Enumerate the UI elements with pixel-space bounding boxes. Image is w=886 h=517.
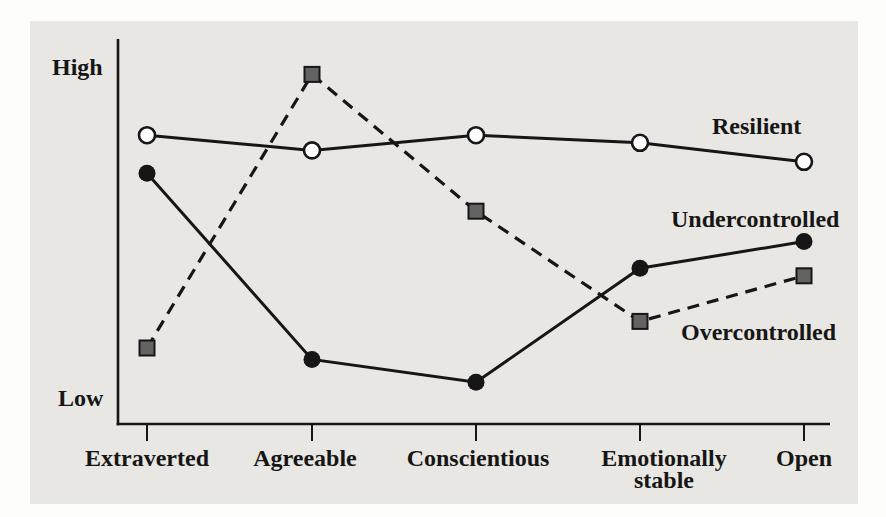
overcontrolled-marker-1 xyxy=(305,67,320,82)
x-category-label-line1: Conscientious xyxy=(407,447,550,469)
x-category-conscientious: Conscientious xyxy=(407,447,550,469)
undercontrolled-marker-0 xyxy=(139,165,156,182)
series-label-undercontrolled: Undercontrolled xyxy=(671,207,839,231)
x-category-agreeable: Agreeable xyxy=(253,447,357,469)
series-label-resilient: Resilient xyxy=(712,114,801,138)
x-category-label-line1: Extraverted xyxy=(85,447,209,469)
series-label-overcontrolled: Overcontrolled xyxy=(681,320,836,344)
overcontrolled-marker-2 xyxy=(469,204,484,219)
plot-svg xyxy=(0,0,886,517)
overcontrolled-marker-3 xyxy=(633,314,648,329)
overcontrolled-marker-4 xyxy=(797,268,812,283)
x-category-emotionally-stable: Emotionallystable xyxy=(601,447,726,491)
chart-figure: High Low Extraverted Agreeable Conscient… xyxy=(0,0,886,517)
overcontrolled-marker-0 xyxy=(140,341,155,356)
undercontrolled-marker-4 xyxy=(796,233,813,250)
y-axis-low-label: Low xyxy=(58,386,103,410)
resilient-marker-2 xyxy=(468,127,484,143)
resilient-marker-0 xyxy=(139,127,155,143)
x-category-label-line1: Agreeable xyxy=(253,447,357,469)
resilient-marker-3 xyxy=(632,135,648,151)
resilient-marker-4 xyxy=(796,154,812,170)
x-category-label-line1: Open xyxy=(776,447,832,469)
undercontrolled-marker-2 xyxy=(468,374,485,391)
resilient-marker-1 xyxy=(304,142,320,158)
undercontrolled-marker-3 xyxy=(632,260,649,277)
x-category-label-line1: Emotionally xyxy=(601,447,726,469)
x-category-extraverted: Extraverted xyxy=(85,447,209,469)
x-category-open: Open xyxy=(776,447,832,469)
y-axis-high-label: High xyxy=(52,55,103,79)
undercontrolled-marker-1 xyxy=(304,351,321,368)
x-category-label-line2: stable xyxy=(601,469,726,491)
